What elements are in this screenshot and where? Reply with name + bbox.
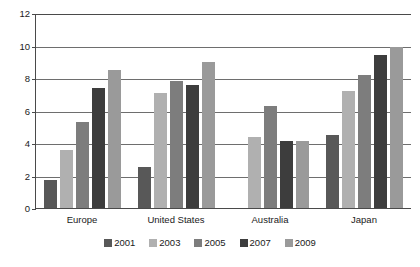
bar-2009-japan bbox=[390, 47, 403, 208]
bar-slot bbox=[170, 14, 183, 208]
bar-2001-japan bbox=[326, 135, 339, 208]
bar-slot bbox=[186, 14, 199, 208]
bar-slot bbox=[92, 14, 105, 208]
bar-slot bbox=[232, 14, 245, 208]
bar-slot bbox=[390, 14, 403, 208]
bar-groups bbox=[36, 14, 411, 208]
bar-2003-japan bbox=[342, 91, 355, 208]
bar-2009-united-states bbox=[202, 62, 215, 208]
y-tick-mark-8 bbox=[32, 79, 36, 80]
y-tick-mark-6 bbox=[32, 112, 36, 113]
x-axis-category-label: Europe bbox=[35, 214, 129, 225]
legend-item-2007[interactable]: 2007 bbox=[240, 238, 271, 248]
bar-2009-australia bbox=[296, 141, 309, 208]
legend-item-2001[interactable]: 2001 bbox=[104, 238, 135, 248]
bar-2007-australia bbox=[280, 141, 293, 208]
y-axis-labels: 024681012 bbox=[0, 14, 30, 209]
y-tick-mark-2 bbox=[32, 177, 36, 178]
legend-item-2005[interactable]: 2005 bbox=[194, 238, 225, 248]
legend-label: 2007 bbox=[250, 238, 271, 248]
bar-2003-europe bbox=[60, 150, 73, 209]
plot-area bbox=[35, 14, 411, 209]
bar-2005-japan bbox=[358, 75, 371, 208]
bar-2001-united-states bbox=[138, 167, 151, 208]
y-tick-mark-10 bbox=[32, 47, 36, 48]
bar-slot bbox=[138, 14, 151, 208]
bar-group-australia bbox=[224, 14, 318, 208]
bar-2003-australia bbox=[248, 137, 261, 209]
bar-slot bbox=[108, 14, 121, 208]
legend-label: 2009 bbox=[295, 238, 316, 248]
x-axis-category-label: Japan bbox=[317, 214, 411, 225]
bar-chart: 024681012 EuropeUnited StatesAustraliaJa… bbox=[0, 0, 420, 267]
legend-label: 2005 bbox=[204, 238, 225, 248]
y-tick-mark-4 bbox=[32, 144, 36, 145]
y-tick-mark-12 bbox=[32, 14, 36, 15]
bar-slot bbox=[374, 14, 387, 208]
legend-item-2009[interactable]: 2009 bbox=[285, 238, 316, 248]
bar-group-europe bbox=[36, 14, 130, 208]
bar-2007-japan bbox=[374, 55, 387, 208]
x-axis-category-label: United States bbox=[129, 214, 223, 225]
bar-slot bbox=[44, 14, 57, 208]
bar-slot bbox=[280, 14, 293, 208]
y-axis-tick-label: 6 bbox=[25, 107, 30, 117]
legend-swatch-icon bbox=[194, 239, 202, 247]
legend-label: 2001 bbox=[114, 238, 135, 248]
bar-slot bbox=[264, 14, 277, 208]
x-axis-labels: EuropeUnited StatesAustraliaJapan bbox=[35, 214, 411, 225]
bar-group-japan bbox=[317, 14, 411, 208]
bar-slot bbox=[296, 14, 309, 208]
legend-swatch-icon bbox=[285, 239, 293, 247]
bar-slot bbox=[326, 14, 339, 208]
bar-slot bbox=[342, 14, 355, 208]
y-axis-tick-label: 0 bbox=[25, 204, 30, 214]
legend-label: 2003 bbox=[159, 238, 180, 248]
bar-slot bbox=[154, 14, 167, 208]
bar-slot bbox=[76, 14, 89, 208]
chart-legend: 20012003200520072009 bbox=[0, 238, 420, 248]
bar-2009-europe bbox=[108, 70, 121, 208]
bar-group-united-states bbox=[130, 14, 224, 208]
x-axis-category-label: Australia bbox=[223, 214, 317, 225]
legend-swatch-icon bbox=[240, 239, 248, 247]
bar-2005-australia bbox=[264, 106, 277, 208]
bar-slot bbox=[60, 14, 73, 208]
y-axis-tick-label: 8 bbox=[25, 74, 30, 84]
legend-swatch-icon bbox=[149, 239, 157, 247]
legend-swatch-icon bbox=[104, 239, 112, 247]
y-axis-tick-label: 10 bbox=[19, 42, 30, 52]
bar-2005-europe bbox=[76, 122, 89, 208]
y-tick-mark-0 bbox=[32, 209, 36, 210]
y-axis-tick-label: 4 bbox=[25, 139, 30, 149]
bar-slot bbox=[358, 14, 371, 208]
bar-2003-united-states bbox=[154, 93, 167, 208]
bar-slot bbox=[248, 14, 261, 208]
bar-2007-united-states bbox=[186, 85, 199, 209]
bar-2001-europe bbox=[44, 180, 57, 208]
bar-slot bbox=[202, 14, 215, 208]
legend-item-2003[interactable]: 2003 bbox=[149, 238, 180, 248]
bar-2007-europe bbox=[92, 88, 105, 208]
y-axis-tick-label: 2 bbox=[25, 172, 30, 182]
bar-2005-united-states bbox=[170, 81, 183, 208]
y-axis-tick-label: 12 bbox=[19, 9, 30, 19]
